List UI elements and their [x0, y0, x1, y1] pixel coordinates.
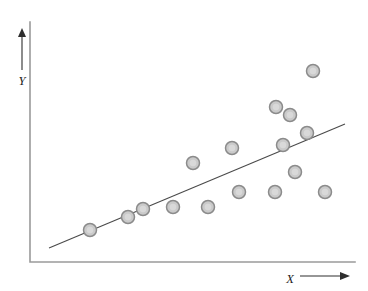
scatter-plot-figure: Y X	[0, 0, 368, 291]
data-point-highlight	[125, 214, 132, 221]
data-point-highlight	[322, 189, 329, 196]
data-point-highlight	[273, 104, 280, 111]
data-point-highlight	[272, 189, 279, 196]
x-arrow-head	[340, 272, 350, 280]
data-point-highlight	[190, 160, 197, 167]
data-point-highlight	[170, 204, 177, 211]
x-axis-label: X	[285, 272, 295, 286]
data-point-highlight	[140, 206, 147, 213]
data-point-highlight	[280, 142, 287, 149]
data-point-highlight	[287, 112, 294, 119]
plot-canvas: Y X	[0, 0, 368, 291]
data-point-highlight	[310, 68, 317, 75]
data-point-highlight	[87, 227, 94, 234]
data-point-highlight	[292, 169, 299, 176]
data-point-highlight	[229, 145, 236, 152]
y-axis-label: Y	[19, 74, 28, 88]
scatter-markers	[84, 65, 332, 237]
data-point-highlight	[205, 204, 212, 211]
y-arrow-head	[18, 28, 26, 37]
data-point-highlight	[236, 189, 243, 196]
axis-group	[30, 22, 355, 262]
x-axis-arrow	[300, 272, 350, 280]
axis-lines	[30, 22, 355, 262]
y-axis-arrow	[18, 28, 26, 70]
data-point-highlight	[304, 130, 311, 137]
